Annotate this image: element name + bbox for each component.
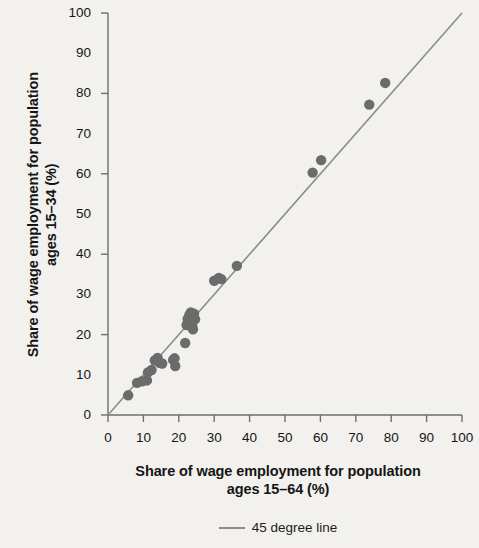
x-tick-label-20: 20 [162, 431, 196, 445]
x-tick-label-10: 10 [126, 431, 160, 445]
x-tick-label-70: 70 [339, 431, 373, 445]
x-tick-label-30: 30 [197, 431, 231, 445]
data-point [188, 324, 198, 334]
y-axis-ticks [101, 13, 108, 415]
data-point [364, 99, 374, 109]
data-point [170, 361, 180, 371]
x-tick-label-90: 90 [410, 431, 444, 445]
data-point [307, 167, 317, 177]
y-tick-label-70: 70 [57, 127, 91, 141]
x-tick-label-40: 40 [233, 431, 267, 445]
legend-item-label: 45 degree line [252, 520, 338, 535]
data-point [180, 338, 190, 348]
scatter-chart-figure: Share of wage employment for population … [0, 0, 479, 548]
data-point [380, 78, 390, 88]
data-point [216, 274, 226, 284]
x-axis-ticks [108, 415, 462, 422]
x-tick-label-50: 50 [268, 431, 302, 445]
x-axis-title-container: Share of wage employment for population … [88, 462, 468, 498]
y-tick-label-20: 20 [57, 328, 91, 342]
x-axis-title: Share of wage employment for population … [88, 462, 468, 498]
y-tick-label-90: 90 [57, 46, 91, 60]
data-point [232, 261, 242, 271]
data-point [157, 358, 167, 368]
data-point [146, 365, 156, 375]
y-tick-label-50: 50 [57, 207, 91, 221]
x-axis-title-line-1: Share of wage employment for population [135, 463, 420, 479]
y-tick-label-60: 60 [57, 167, 91, 181]
y-tick-label-100: 100 [57, 6, 91, 20]
x-axis-title-line-2: ages 15–64 (%) [88, 480, 468, 498]
y-tick-label-10: 10 [57, 368, 91, 382]
y-tick-label-0: 0 [57, 408, 91, 422]
x-tick-label-80: 80 [374, 431, 408, 445]
y-tick-label-40: 40 [57, 247, 91, 261]
x-tick-label-100: 100 [445, 431, 479, 445]
data-point [123, 390, 133, 400]
x-tick-label-0: 0 [91, 431, 125, 445]
data-point [190, 314, 200, 324]
line-swatch-icon [219, 527, 245, 529]
plot-area [0, 0, 479, 460]
chart-legend: 45 degree line [88, 520, 468, 535]
x-tick-label-60: 60 [303, 431, 337, 445]
y-tick-label-80: 80 [57, 86, 91, 100]
data-point [316, 155, 326, 165]
y-tick-label-30: 30 [57, 287, 91, 301]
